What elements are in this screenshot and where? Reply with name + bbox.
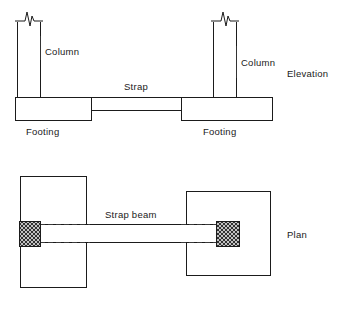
- plan-view-label: Plan: [287, 229, 307, 240]
- elevation-left-footing-label: Footing: [26, 126, 59, 137]
- elevation-right-footing: [182, 98, 273, 121]
- elevation-view-label: Elevation: [287, 68, 328, 79]
- plan-right-column-section: [217, 222, 240, 247]
- elevation-right-column: [211, 12, 239, 97]
- elevation-left-column: [15, 12, 43, 97]
- plan-strap-beam: [40, 225, 225, 242]
- plan-view: Strap beam Plan: [20, 177, 308, 288]
- elevation-strap-label: Strap: [124, 81, 148, 92]
- engineering-drawing-svg: Column Column Strap Footing Footing Elev…: [0, 0, 341, 311]
- elevation-right-footing-label: Footing: [203, 126, 236, 137]
- elevation-left-footing: [16, 98, 92, 121]
- strap-footing-figure: Column Column Strap Footing Footing Elev…: [0, 0, 341, 311]
- elevation-left-column-label: Column: [45, 46, 79, 57]
- elevation-right-column-label: Column: [241, 57, 275, 68]
- plan-left-column-section: [20, 222, 41, 247]
- plan-strap-beam-label: Strap beam: [105, 209, 157, 220]
- elevation-view: Column Column Strap Footing Footing Elev…: [15, 12, 328, 137]
